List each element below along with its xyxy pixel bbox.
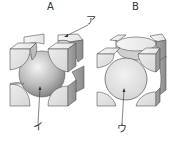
- face-atom-front-b: [105, 58, 147, 100]
- callout-a: ア: [86, 16, 96, 26]
- panel-label-a: A: [47, 2, 54, 12]
- cube-b: [97, 34, 166, 106]
- callout-u: ウ: [117, 124, 127, 134]
- callout-i: イ: [33, 122, 43, 132]
- panel-label-b: B: [132, 2, 139, 12]
- cube-a: [10, 34, 84, 106]
